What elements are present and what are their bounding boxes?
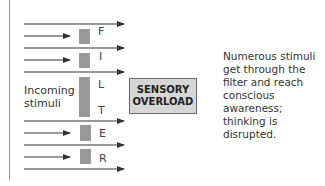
- sensory-overload-box: SENSORY OVERLOAD: [129, 78, 197, 114]
- overload-line: OVERLOAD: [133, 96, 194, 108]
- note-line: filter and reach: [223, 76, 323, 89]
- filter-block-i: [79, 53, 90, 68]
- filter-letter-l: L: [98, 78, 104, 91]
- note-line: awareness;: [223, 102, 323, 115]
- filter-block-e: [80, 125, 91, 141]
- note-line: conscious: [223, 89, 323, 102]
- incoming-stimuli-label: Incoming stimuli: [24, 84, 75, 110]
- incoming-label-line: Incoming: [24, 84, 75, 97]
- filter-letter-i: I: [99, 50, 102, 63]
- note-line: get through the: [223, 63, 323, 76]
- note-line: Numerous stimuli: [223, 50, 323, 63]
- filter-block-lt: [79, 77, 90, 117]
- note-line: thinking is: [223, 115, 323, 128]
- filter-block-f: [79, 29, 90, 44]
- filter-letter-e: E: [99, 127, 106, 140]
- incoming-label-line: stimuli: [24, 97, 75, 110]
- filter-letter-f: F: [98, 25, 104, 38]
- filter-block-r: [80, 149, 91, 164]
- filter-letter-r: R: [99, 152, 107, 165]
- filter-letter-t: T: [98, 104, 105, 117]
- overload-line: SENSORY: [137, 84, 190, 96]
- note-line: disrupted.: [223, 128, 323, 141]
- explanation-note: Numerous stimuli get through the filter …: [223, 50, 323, 141]
